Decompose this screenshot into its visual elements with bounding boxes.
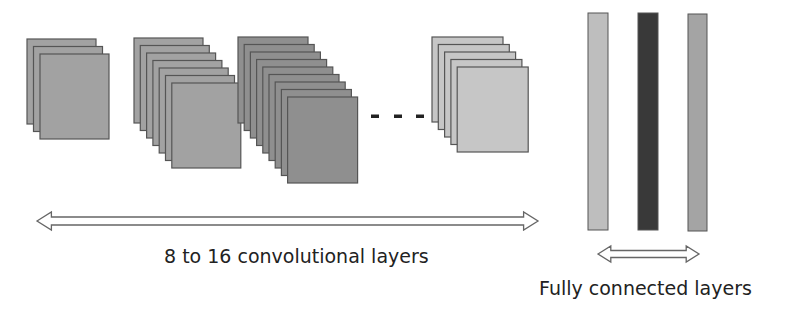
fc-span-arrow-icon <box>598 246 699 262</box>
conv-group-2 <box>134 38 241 168</box>
feature-map-sheet <box>172 83 241 168</box>
conv-span-arrow-icon <box>37 212 538 230</box>
conv-layers-label: 8 to 16 convolutional layers <box>164 245 429 267</box>
conv-group-4 <box>432 37 528 152</box>
feature-map-sheet <box>457 67 528 152</box>
ellipsis-dot <box>416 115 424 119</box>
fc-layers-label: Fully connected layers <box>539 277 752 299</box>
feature-map-sheet <box>288 97 358 183</box>
ellipsis-dot <box>394 115 402 119</box>
fully-connected-layers <box>588 13 707 231</box>
conv-group-1 <box>27 39 109 139</box>
feature-map-sheet <box>40 54 109 139</box>
conv-group-3 <box>238 37 358 183</box>
fc-bar-1 <box>588 13 608 230</box>
ellipsis-dots <box>371 115 424 119</box>
ellipsis-dot <box>371 115 379 119</box>
convolutional-layers <box>27 37 528 183</box>
fc-bar-2 <box>638 13 658 230</box>
cnn-diagram <box>0 0 787 316</box>
fc-bar-3 <box>688 14 707 231</box>
